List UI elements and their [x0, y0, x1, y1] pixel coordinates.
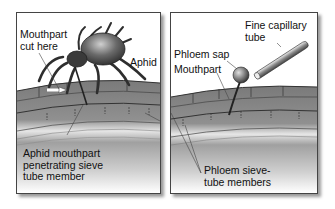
panel-aphid-feeding: Mouthpart cut here Aphid Aphid mouthpart… — [16, 12, 161, 194]
label-phloem-sap: Phloem sap — [174, 49, 229, 61]
label-aphid-mouthpart-penetrating: Aphid mouthpart penetrating sieve tube m… — [23, 148, 103, 183]
panel-sap-collection: Fine capillary tube Phloem sap Mouthpart… — [170, 12, 318, 194]
label-phloem-sieve-tube-members: Phloem sieve- tube members — [204, 165, 271, 188]
label-mouthpart: Mouthpart — [174, 64, 221, 76]
label-aphid: Aphid — [130, 57, 157, 69]
label-mouthpart-cut-here: Mouthpart cut here — [20, 29, 67, 52]
label-fine-capillary-tube: Fine capillary tube — [245, 20, 307, 43]
